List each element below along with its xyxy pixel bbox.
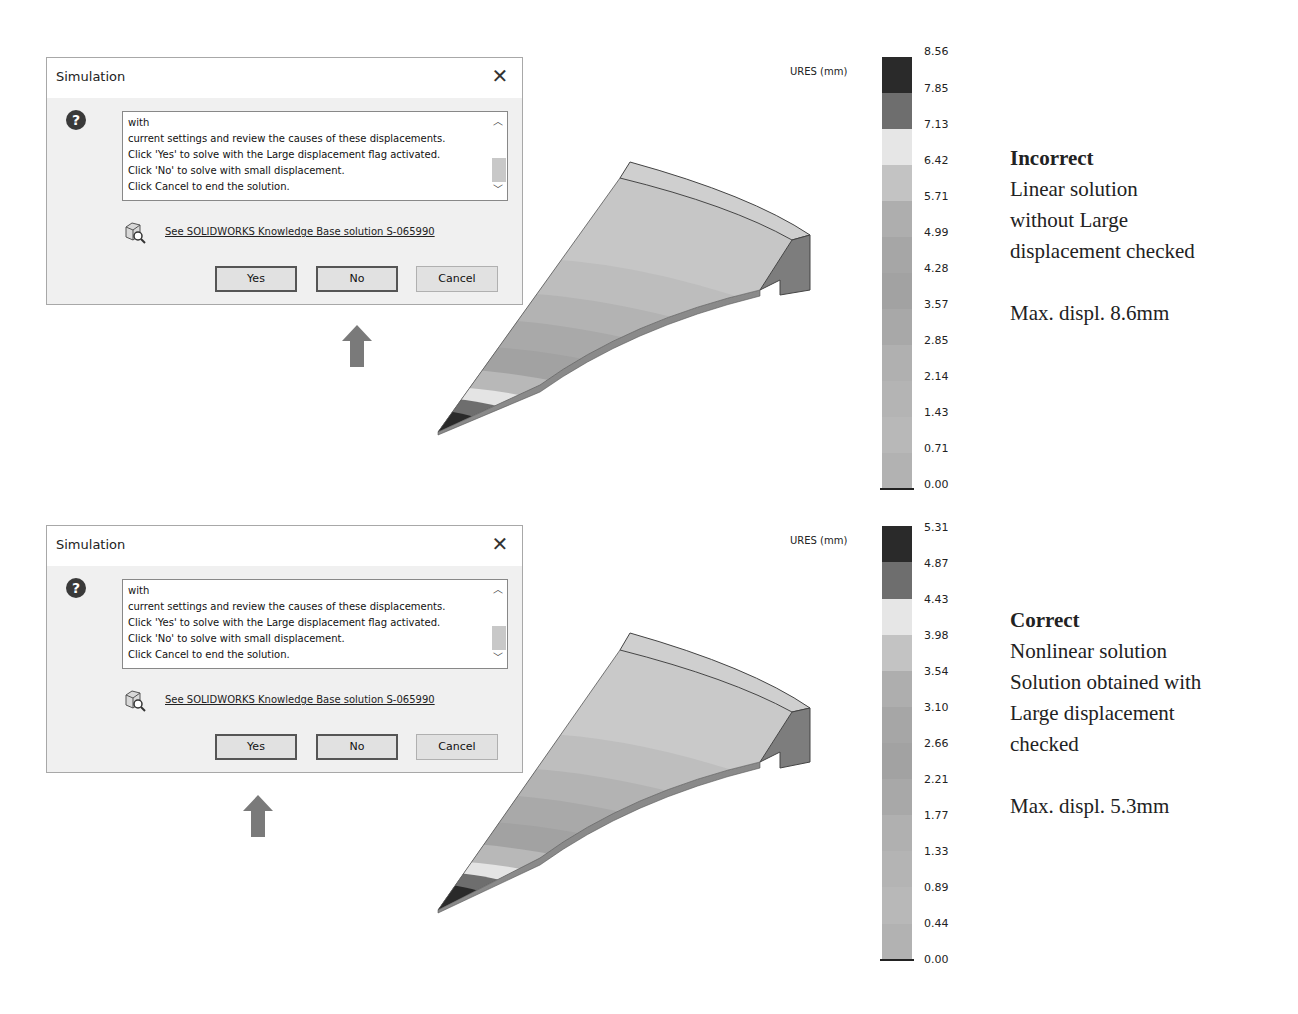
legend-segment xyxy=(882,851,912,887)
fea-model-plot xyxy=(430,620,830,920)
legend-tick: 2.14 xyxy=(924,370,949,383)
legend-tick: 4.99 xyxy=(924,226,949,239)
legend-segment xyxy=(882,707,912,743)
yes-button[interactable]: Yes xyxy=(215,266,297,292)
caption-line: Linear solution xyxy=(1010,174,1195,205)
legend-tick: 6.42 xyxy=(924,154,949,167)
knowledge-base-icon xyxy=(123,689,147,713)
legend-segment xyxy=(882,562,912,599)
arrow-up-icon xyxy=(342,325,372,367)
legend-segment xyxy=(882,924,912,960)
legend-tick: 1.43 xyxy=(924,406,949,419)
caption-line: displacement checked xyxy=(1010,236,1195,267)
legend-segment xyxy=(882,779,912,815)
knowledge-base-link[interactable]: See SOLIDWORKS Knowledge Base solution S… xyxy=(165,694,435,705)
legend-segment xyxy=(882,417,912,453)
legend-tick: 5.71 xyxy=(924,190,949,203)
caption-line: Large displacement xyxy=(1010,698,1201,729)
legend-tick: 8.56 xyxy=(924,45,949,58)
fea-model-plot xyxy=(430,150,830,450)
legend-tick: 3.98 xyxy=(924,629,949,642)
legend-segment xyxy=(882,526,912,562)
caption-max-displacement: Max. displ. 8.6mm xyxy=(1010,298,1195,329)
arrow-up-icon xyxy=(243,795,273,837)
caption-line: without Large xyxy=(1010,205,1195,236)
chevron-up-icon[interactable]: ︿ xyxy=(489,114,507,130)
close-icon[interactable]: ✕ xyxy=(488,64,512,88)
caption-heading: Incorrect xyxy=(1010,143,1195,174)
close-icon[interactable]: ✕ xyxy=(488,532,512,556)
legend-segment xyxy=(882,165,912,201)
caption-line: Solution obtained with xyxy=(1010,667,1201,698)
dialog-title: Simulation xyxy=(56,537,125,552)
legend-segment xyxy=(882,671,912,707)
legend-tick: 7.13 xyxy=(924,118,949,131)
legend-segment xyxy=(882,237,912,273)
legend-segment xyxy=(882,129,912,165)
legend-tick: 5.31 xyxy=(924,521,949,534)
legend-tick: 3.54 xyxy=(924,665,949,678)
legend-title: URES (mm) xyxy=(790,535,847,546)
caption-line: Nonlinear solution xyxy=(1010,636,1201,667)
color-legend-bar xyxy=(882,57,912,489)
no-button[interactable]: No xyxy=(316,734,398,760)
legend-tick: 4.87 xyxy=(924,557,949,570)
legend-tick: 1.33 xyxy=(924,845,949,858)
caption-heading: Correct xyxy=(1010,605,1201,636)
panel-incorrect: Simulation ✕ ? with current settings and… xyxy=(0,0,1298,480)
legend-tick: 1.77 xyxy=(924,809,949,822)
chevron-up-icon[interactable]: ︿ xyxy=(489,582,507,598)
legend-tick: 2.85 xyxy=(924,334,949,347)
legend-tick: 0.44 xyxy=(924,917,949,930)
legend-segment xyxy=(882,635,912,671)
legend-tick: 2.21 xyxy=(924,773,949,786)
knowledge-base-link[interactable]: See SOLIDWORKS Knowledge Base solution S… xyxy=(165,226,435,237)
caption-max-displacement: Max. displ. 5.3mm xyxy=(1010,791,1201,822)
legend-segment xyxy=(882,599,912,635)
legend-tick: 3.10 xyxy=(924,701,949,714)
legend-tick: 0.00 xyxy=(924,953,949,966)
question-icon: ? xyxy=(66,578,86,598)
no-button[interactable]: No xyxy=(316,266,398,292)
legend-tick: 0.89 xyxy=(924,881,949,894)
dialog-titlebar: Simulation ✕ xyxy=(47,526,522,566)
legend-segment xyxy=(882,93,912,129)
yes-button[interactable]: Yes xyxy=(215,734,297,760)
caption-line: checked xyxy=(1010,729,1201,760)
legend-segment xyxy=(882,273,912,309)
legend-tick: 4.43 xyxy=(924,593,949,606)
legend-segment xyxy=(882,57,912,93)
question-icon: ? xyxy=(66,110,86,130)
legend-tick: 2.66 xyxy=(924,737,949,750)
legend-segment xyxy=(882,743,912,779)
color-legend-bar xyxy=(882,526,912,960)
legend-segment xyxy=(882,381,912,417)
legend-segment xyxy=(882,309,912,345)
legend-baseline xyxy=(880,959,914,961)
legend-segment xyxy=(882,815,912,851)
legend-segment xyxy=(882,345,912,381)
message-line: current settings and review the causes o… xyxy=(128,131,484,147)
dialog-titlebar: Simulation ✕ xyxy=(47,58,522,98)
message-line: with xyxy=(128,115,484,131)
dialog-title: Simulation xyxy=(56,69,125,84)
message-line: current settings and review the causes o… xyxy=(128,599,484,615)
legend-tick: 0.71 xyxy=(924,442,949,455)
legend-segment xyxy=(882,887,912,924)
caption-incorrect: Incorrect Linear solution without Large … xyxy=(1010,143,1195,329)
legend-title: URES (mm) xyxy=(790,66,847,77)
legend-segment xyxy=(882,201,912,237)
panel-correct: Simulation ✕ ? with current settings and… xyxy=(0,470,1298,950)
legend-tick: 4.28 xyxy=(924,262,949,275)
legend-tick: 7.85 xyxy=(924,82,949,95)
knowledge-base-icon xyxy=(123,221,147,245)
caption-correct: Correct Nonlinear solution Solution obta… xyxy=(1010,605,1201,822)
message-line: with xyxy=(128,583,484,599)
legend-tick: 3.57 xyxy=(924,298,949,311)
